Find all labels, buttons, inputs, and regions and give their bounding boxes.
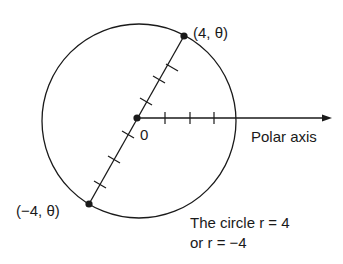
- origin-label: 0: [140, 126, 148, 143]
- diameter-ticks: [94, 64, 178, 188]
- polar-circle-diagram: (4, θ) (−4, θ) 0 Polar axis The circle r…: [0, 0, 343, 264]
- point-positive-label: (4, θ): [193, 24, 228, 41]
- caption-line-2: or r = −4: [190, 234, 247, 251]
- point-negative-dot: [85, 200, 92, 207]
- axis-arrow-icon: [322, 115, 332, 122]
- caption-line-1: The circle r = 4: [190, 214, 290, 231]
- origin-dot: [133, 114, 140, 121]
- polar-axis-label: Polar axis: [251, 128, 317, 145]
- point-negative-label: (−4, θ): [16, 202, 60, 219]
- circle-r4: [42, 24, 236, 218]
- point-positive-dot: [180, 32, 187, 39]
